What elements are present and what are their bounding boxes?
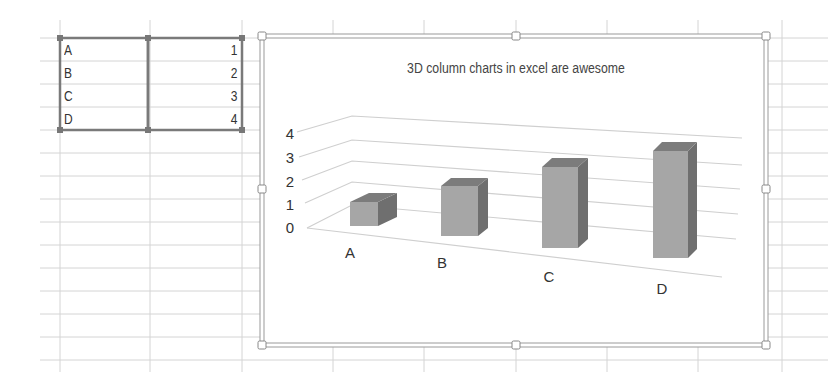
x-tick-label: B — [437, 254, 447, 271]
bar-B[interactable] — [441, 178, 488, 236]
bar-front — [441, 186, 478, 236]
spreadsheet: A1B2C3D4 3D column charts in excel are a… — [0, 0, 828, 380]
bar-side — [688, 142, 697, 258]
bar-front — [542, 167, 578, 248]
resize-handle[interactable] — [762, 341, 770, 349]
y-tick-label: 4 — [286, 125, 294, 142]
bar-front — [653, 151, 688, 258]
bar-front — [350, 202, 378, 226]
resize-handle[interactable] — [258, 341, 266, 349]
y-axis-labels: 01234 — [286, 125, 294, 236]
y-tick-label: 2 — [286, 173, 294, 190]
bar-C[interactable] — [542, 158, 588, 248]
resize-handle[interactable] — [762, 185, 770, 193]
bar-D[interactable] — [653, 142, 697, 258]
bar-side — [478, 178, 488, 236]
y-tick-label: 0 — [286, 219, 294, 236]
y-tick-label: 1 — [286, 196, 294, 213]
resize-handle[interactable] — [512, 341, 520, 349]
x-tick-label: D — [657, 280, 668, 297]
x-tick-label: A — [345, 244, 355, 261]
chart-title[interactable]: 3D column charts in excel are awesome — [407, 60, 625, 76]
resize-handle[interactable] — [258, 32, 266, 40]
resize-handle[interactable] — [762, 32, 770, 40]
bar-side — [578, 158, 588, 248]
resize-handle[interactable] — [258, 185, 266, 193]
x-tick-label: C — [544, 268, 555, 285]
y-tick-label: 3 — [286, 149, 294, 166]
chart-object[interactable]: 3D column charts in excel are awesome 01… — [0, 0, 828, 380]
resize-handle[interactable] — [512, 32, 520, 40]
